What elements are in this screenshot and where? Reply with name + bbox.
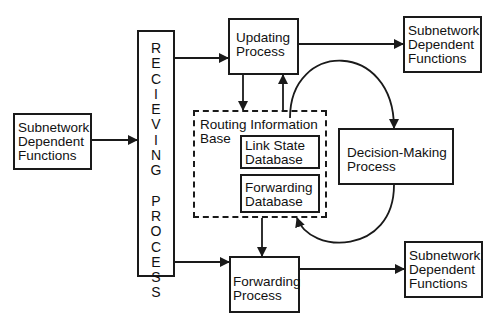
subnetwork-dependent-functions-left: Subnetwork Dependent Functions xyxy=(13,113,92,170)
updating-process: Updating Process xyxy=(228,18,299,75)
link-state-database: Link State Database xyxy=(240,135,320,169)
subnetwork-dependent-functions-top-right: Subnetwork Dependent Functions xyxy=(403,16,482,73)
receiving-process: RECIEVING RECIEVING PROCESS PROCESS xyxy=(137,30,175,277)
forwarding-database: Forwarding Database xyxy=(240,174,320,213)
decision-making-process: Decision-Making Process xyxy=(338,128,454,185)
subnetwork-left-label: Subnetwork Dependent Functions xyxy=(18,121,89,163)
forwarding-database-label: Forwarding Database xyxy=(245,181,313,209)
forwarding-process-label: Forwarding Process xyxy=(233,275,301,303)
forwarding-process: Forwarding Process xyxy=(229,256,300,313)
subnetwork-bottom-right-label: Subnetwork Dependent Functions xyxy=(409,249,480,291)
subnetwork-dependent-functions-bottom-right: Subnetwork Dependent Functions xyxy=(404,241,483,298)
subnetwork-top-right-label: Subnetwork Dependent Functions xyxy=(408,24,479,66)
updating-process-label: Updating Process xyxy=(236,31,290,59)
receiving-label: RECIEVING RECIEVING PROCESS PROCESS xyxy=(137,41,175,301)
link-state-database-label: Link State Database xyxy=(245,139,305,167)
decision-making-label: Decision-Making Process xyxy=(347,146,447,174)
